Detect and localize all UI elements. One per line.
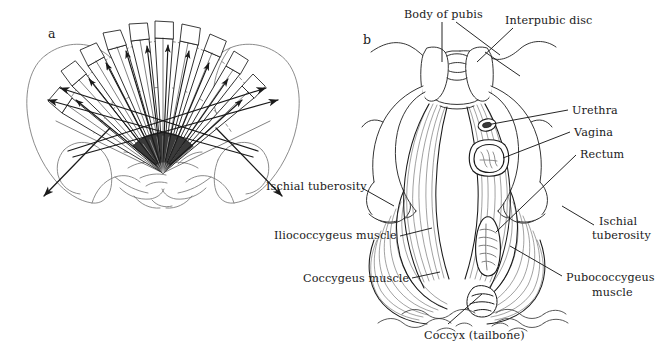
- label-body-of-pubis: Body of pubis: [404, 8, 483, 21]
- label-ischial-tuberosity-right-line2: tuberosity: [592, 229, 651, 242]
- anatomy-figure: a b Body of pubis Interpubic disc Urethr…: [0, 0, 655, 350]
- panel-b-letter: b: [363, 33, 371, 46]
- panel-a-letter: a: [48, 27, 55, 40]
- anal-canal-opening: [476, 217, 501, 276]
- panel-b-group: [362, 41, 568, 331]
- label-interpubic-disc: Interpubic disc: [505, 14, 592, 27]
- leader-ischial-tuberosity-right: [562, 206, 594, 225]
- label-coccyx-tailbone: Coccyx (tailbone): [424, 329, 525, 342]
- panel-a-group: [27, 21, 299, 208]
- label-iliococcygeus-muscle: Iliococcygeus muscle: [274, 229, 397, 242]
- label-ischial-tuberosity-left: Ischial tuberosity: [266, 180, 367, 193]
- label-coccygeus-muscle: Coccygeus muscle: [303, 272, 409, 285]
- panel-a-artwork: [0, 0, 655, 350]
- vaginal-opening: [469, 140, 509, 177]
- label-pubococcygeus-muscle-line2: muscle: [592, 286, 633, 299]
- label-vagina: Vagina: [574, 126, 613, 139]
- label-rectum: Rectum: [580, 148, 624, 161]
- label-ischial-tuberosity-right-line1: Ischial: [599, 215, 637, 228]
- label-urethra: Urethra: [572, 104, 618, 117]
- pubic-bones: [371, 41, 556, 109]
- label-pubococcygeus-muscle-line1: Pubococcygeus: [566, 271, 655, 284]
- coccyx: [467, 286, 497, 318]
